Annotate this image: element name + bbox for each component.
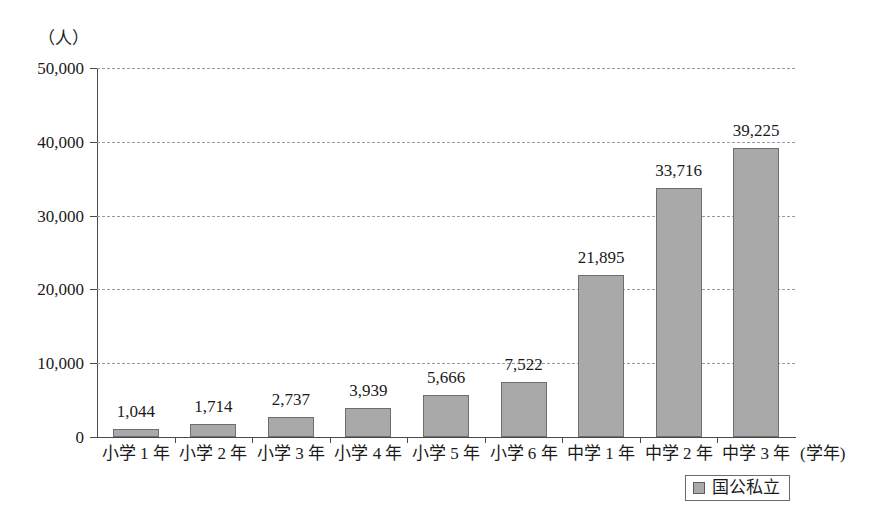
x-axis-category-label: 小学 1 年 — [102, 445, 170, 462]
plot-area: 010,00020,00030,00040,00050,0001,0441,71… — [97, 68, 795, 437]
bar — [113, 429, 159, 437]
x-axis-category-label: 中学 1 年 — [567, 445, 635, 462]
x-axis-title: (学年) — [800, 445, 845, 462]
bar-value-label: 5,666 — [427, 369, 465, 386]
y-axis-tick-mark — [90, 68, 97, 69]
y-axis-tick-mark — [90, 289, 97, 290]
x-axis-tick-mark — [175, 437, 176, 443]
x-axis-tick-mark — [640, 437, 641, 443]
bar — [268, 417, 314, 437]
bar — [345, 408, 391, 437]
y-axis-tick-mark — [90, 363, 97, 364]
bar-value-label: 1,714 — [194, 398, 232, 415]
y-axis-tick-label: 10,000 — [37, 355, 84, 372]
y-axis-tick-label: 40,000 — [37, 133, 84, 150]
x-axis-category-label: 小学 5 年 — [412, 445, 480, 462]
y-axis-tick-label: 30,000 — [37, 207, 84, 224]
bar-value-label: 7,522 — [504, 356, 542, 373]
y-axis-tick-label: 0 — [76, 429, 85, 446]
bar-value-label: 3,939 — [349, 382, 387, 399]
bar-value-label: 39,225 — [733, 122, 780, 139]
y-axis-tick-mark — [90, 216, 97, 217]
gridline — [97, 142, 795, 143]
bar-value-label: 21,895 — [578, 249, 625, 266]
legend-label: 国公私立 — [712, 479, 780, 496]
bar — [733, 148, 779, 437]
bar-value-label: 33,716 — [655, 162, 702, 179]
x-axis-category-label: 小学 2 年 — [179, 445, 247, 462]
x-axis-tick-mark — [717, 437, 718, 443]
x-axis-tick-mark — [330, 437, 331, 443]
x-axis-tick-mark — [407, 437, 408, 443]
gridline — [97, 68, 795, 69]
x-axis-category-label: 中学 2 年 — [645, 445, 713, 462]
bar — [656, 188, 702, 437]
x-axis-tick-mark — [485, 437, 486, 443]
x-axis-line — [97, 437, 796, 438]
x-axis-tick-mark — [252, 437, 253, 443]
y-axis-tick-mark — [90, 437, 97, 438]
y-axis-tick-label: 50,000 — [37, 60, 84, 77]
legend-swatch-icon — [693, 482, 705, 494]
x-axis-category-label: 小学 4 年 — [334, 445, 402, 462]
bar-value-label: 2,737 — [272, 391, 310, 408]
bar — [578, 275, 624, 437]
bar-value-label: 1,044 — [117, 403, 155, 420]
bar — [423, 395, 469, 437]
x-axis-category-label: 中学 3 年 — [722, 445, 790, 462]
y-axis-unit-label: （人） — [38, 24, 89, 49]
legend: 国公私立 — [685, 475, 790, 501]
bar-chart: （人） 010,00020,00030,00040,00050,0001,044… — [0, 0, 877, 512]
y-axis-tick-mark — [90, 142, 97, 143]
x-axis-tick-mark — [562, 437, 563, 443]
x-axis-category-label: 小学 3 年 — [257, 445, 325, 462]
bar — [501, 382, 547, 438]
x-axis-category-label: 小学 6 年 — [490, 445, 558, 462]
bar — [190, 424, 236, 437]
y-axis-tick-label: 20,000 — [37, 281, 84, 298]
